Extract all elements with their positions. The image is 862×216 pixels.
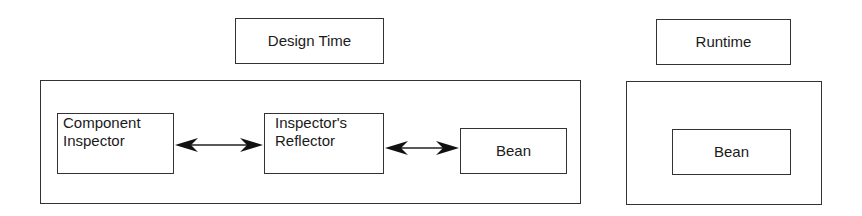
arrows-layer bbox=[0, 0, 862, 216]
arrow-component-reflector bbox=[175, 138, 263, 152]
arrow-reflector-bean bbox=[385, 141, 459, 155]
